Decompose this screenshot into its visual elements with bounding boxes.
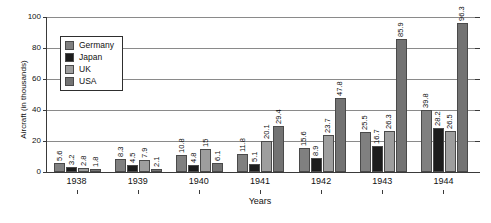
bar-slot: 15: [200, 17, 211, 172]
bar-value-label: 15.6: [300, 131, 308, 146]
bar-slot: 26.3: [384, 17, 395, 172]
x-tick-label: 1943: [352, 176, 413, 190]
y-tick-label: 60: [32, 75, 41, 83]
y-tick-label: 100: [28, 13, 41, 21]
y-tick-right: [475, 17, 480, 18]
y-axis-title: Aircraft (in thousands): [19, 30, 28, 170]
y-tick-right: [475, 141, 480, 142]
legend-swatch-icon: [65, 41, 74, 50]
legend-swatch-icon: [65, 77, 74, 86]
y-tick-right: [475, 172, 480, 173]
bar-slot: 39.8: [421, 17, 432, 172]
bar-slot: 6.1: [212, 17, 223, 172]
x-tick-label: 1940: [168, 176, 229, 190]
y-tick-label: 80: [32, 44, 41, 52]
bar-value-label: 3.2: [68, 155, 76, 165]
bar[interactable]: [372, 146, 383, 172]
bar-slot: 85.9: [396, 17, 407, 172]
bar[interactable]: [433, 128, 444, 172]
legend-item[interactable]: UK: [65, 64, 114, 75]
bar-value-label: 4.5: [129, 153, 137, 163]
bar[interactable]: [237, 154, 248, 172]
x-tick-label: 1944: [413, 176, 474, 190]
bar[interactable]: [360, 132, 371, 172]
bar-value-label: 16.7: [373, 130, 381, 145]
bar-slot: 29.4: [273, 17, 284, 172]
bar[interactable]: [384, 131, 395, 172]
bar-value-label: 5.1: [251, 152, 259, 162]
bar[interactable]: [139, 160, 150, 172]
x-tick-label: 1942: [291, 176, 352, 190]
bar-group: 10.84.8156.1: [169, 17, 230, 172]
bar-group: 15.68.923.747.8: [292, 17, 353, 172]
bar-chart-figure: Aircraft (in thousands) 020406080100 5.6…: [0, 0, 491, 223]
bar[interactable]: [249, 164, 260, 172]
legend-swatch-icon: [65, 53, 74, 62]
bar-value-label: 4.8: [190, 152, 198, 162]
x-tick: [77, 190, 78, 194]
bar[interactable]: [54, 163, 65, 172]
bar-value-label: 8.3: [117, 147, 125, 157]
x-axis-title: Years: [46, 196, 474, 206]
x-axis-tick-labels: 1938193919401941194219431944: [46, 176, 474, 190]
bar[interactable]: [323, 135, 334, 172]
x-tick-label: 1938: [46, 176, 107, 190]
bar[interactable]: [261, 141, 272, 172]
bar[interactable]: [115, 159, 126, 172]
bar[interactable]: [66, 167, 77, 172]
bar[interactable]: [127, 165, 138, 172]
bar[interactable]: [90, 169, 101, 172]
bar-slot: 11.8: [237, 17, 248, 172]
x-tick: [138, 190, 139, 194]
bar-slot: 20.1: [261, 17, 272, 172]
bar-value-label: 11.8: [239, 138, 247, 152]
bar-value-label: 5.6: [56, 151, 64, 161]
legend-item[interactable]: Germany: [65, 40, 114, 51]
legend-item[interactable]: USA: [65, 76, 114, 87]
bar-slot: 2.1: [151, 17, 162, 172]
bar-value-label: 1.8: [92, 157, 100, 167]
bar[interactable]: [176, 155, 187, 172]
bar-slot: 5.1: [249, 17, 260, 172]
legend-label: USA: [79, 77, 96, 86]
bar-value-label: 25.5: [361, 116, 369, 131]
bar-value-label: 15: [202, 138, 210, 146]
y-tick-label: 0: [37, 168, 41, 176]
bar-slot: 28.2: [433, 17, 444, 172]
bar[interactable]: [311, 158, 322, 172]
bar[interactable]: [212, 163, 223, 172]
legend-item[interactable]: Japan: [65, 52, 114, 63]
bar[interactable]: [457, 23, 468, 172]
bar-group: 11.85.120.129.4: [230, 17, 291, 172]
bar-value-label: 6.1: [214, 150, 222, 160]
bar[interactable]: [200, 149, 211, 172]
x-tick: [199, 190, 200, 194]
bar[interactable]: [188, 165, 199, 172]
bar-slot: 4.8: [188, 17, 199, 172]
bar[interactable]: [445, 131, 456, 172]
bar-value-label: 2.8: [80, 155, 88, 165]
bar-value-label: 26.3: [385, 115, 393, 130]
bar-slot: 47.8: [335, 17, 346, 172]
y-tick-right: [475, 48, 480, 49]
bar[interactable]: [273, 126, 284, 172]
bar-slot: 16.7: [372, 17, 383, 172]
legend-swatch-icon: [65, 65, 74, 74]
bar-slot: 23.7: [323, 17, 334, 172]
bar-slot: 26.5: [445, 17, 456, 172]
bar-value-label: 7.9: [141, 147, 149, 157]
bar[interactable]: [421, 110, 432, 172]
bar-value-label: 26.5: [446, 114, 454, 129]
bar-slot: 25.5: [360, 17, 371, 172]
bar-value-label: 96.3: [458, 6, 466, 21]
bar-value-label: 39.8: [422, 94, 430, 109]
bar-group: 25.516.726.385.9: [353, 17, 414, 172]
bar[interactable]: [78, 168, 89, 172]
legend-label: Germany: [79, 41, 114, 50]
legend-label: UK: [79, 65, 91, 74]
bar[interactable]: [335, 98, 346, 172]
bar[interactable]: [396, 39, 407, 172]
bar-value-label: 23.7: [324, 119, 332, 134]
bar[interactable]: [151, 169, 162, 172]
bar[interactable]: [299, 148, 310, 172]
